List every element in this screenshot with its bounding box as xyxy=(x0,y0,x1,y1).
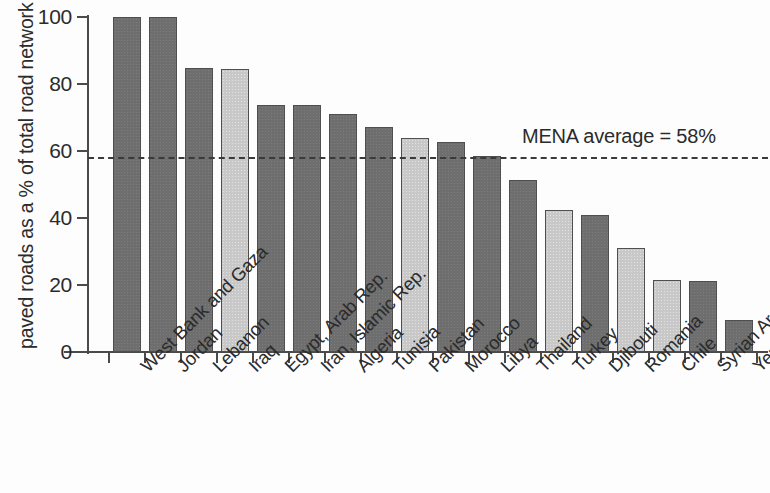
y-axis-tick-label-wrap: 100 xyxy=(0,6,72,27)
y-axis-tick xyxy=(77,351,88,353)
x-axis-category-label: West Bank and Gaza xyxy=(137,362,150,375)
x-axis-category-label-text: Romania xyxy=(641,362,654,375)
y-axis-tick-label: 20 xyxy=(0,274,72,295)
x-axis-category-label-text: Pakistan xyxy=(425,362,438,375)
x-axis-category-label-text: Libya xyxy=(497,362,510,375)
x-axis-category-label: Romania xyxy=(641,362,654,375)
x-axis-category-label: Iran, Islamic Rep. xyxy=(317,362,330,375)
x-axis-category-label-text: Iran, Islamic Rep. xyxy=(317,362,330,375)
x-axis-category-label-text: West Bank and Gaza xyxy=(137,362,150,375)
x-axis-category-label-text: Thailand xyxy=(533,362,546,375)
y-axis-tick-label-wrap: 80 xyxy=(0,73,72,94)
x-axis-category-label: Morocco xyxy=(461,362,474,375)
mena-average-label: MENA average = 58% xyxy=(522,126,716,146)
y-axis-tick xyxy=(77,284,88,286)
bar-morocco xyxy=(437,142,465,352)
x-axis-category-label-text: Turkey xyxy=(569,362,582,375)
x-axis-category-label: Yemen, Rep. xyxy=(749,362,762,375)
x-axis-category-label-text: Lebanon xyxy=(209,362,222,375)
x-axis-category-label-text: Jordan xyxy=(173,362,186,375)
x-axis-category-label-text: Iraq xyxy=(245,362,258,375)
x-axis-category-label: Jordan xyxy=(173,362,186,375)
y-axis-tick-label-wrap: 40 xyxy=(0,207,72,228)
y-axis-tick-label-wrap: 20 xyxy=(0,274,72,295)
mena-average-line xyxy=(88,157,768,159)
plot-area xyxy=(88,17,768,352)
y-axis-tick-label: 60 xyxy=(0,140,72,161)
bar-pakistan xyxy=(401,138,429,352)
x-axis-category-label-text: Tunisia xyxy=(389,362,402,375)
y-axis-tick-label: 0 xyxy=(0,341,72,362)
y-axis-tick-label: 80 xyxy=(0,73,72,94)
x-axis-category-label: Chile xyxy=(677,362,690,375)
x-axis-category-label-text: Morocco xyxy=(461,362,474,375)
x-axis-category-label-text: Egypt, Arab Rep. xyxy=(281,362,294,375)
x-axis-category-label-text: Djibouti xyxy=(605,362,618,375)
bar-west-bank-and-gaza xyxy=(113,17,141,352)
x-axis-tick xyxy=(108,352,110,363)
y-axis-title: paved roads as a % of total road network xyxy=(15,9,37,349)
x-axis-category-label: Egypt, Arab Rep. xyxy=(281,362,294,375)
y-axis-tick-label: 100 xyxy=(0,6,72,27)
x-axis-category-label: Djibouti xyxy=(605,362,618,375)
y-axis-tick-label-wrap: 60 xyxy=(0,140,72,161)
y-axis-tick xyxy=(77,16,88,18)
x-axis-category-label-text: Chile xyxy=(677,362,690,375)
bar-jordan xyxy=(149,17,177,352)
x-axis-category-label: Pakistan xyxy=(425,362,438,375)
x-axis-category-label: Lebanon xyxy=(209,362,222,375)
bar-chart-figure: paved roads as a % of total road network… xyxy=(0,0,770,493)
bar-iraq xyxy=(221,69,249,352)
bar-iran-islamic-rep xyxy=(293,105,321,352)
x-axis-category-label-text: Yemen, Rep. xyxy=(749,362,762,375)
x-axis-category-label-text: Syrian Arab Republic xyxy=(713,362,726,375)
x-axis-category-label: Syrian Arab Republic xyxy=(713,362,726,375)
x-axis-category-label: Tunisia xyxy=(389,362,402,375)
y-axis-tick-label-wrap: 0 xyxy=(0,341,72,362)
y-axis-tick-label: 40 xyxy=(0,207,72,228)
x-axis-category-label-text: Algeria xyxy=(353,362,366,375)
x-axis-category-label: Turkey xyxy=(569,362,582,375)
x-axis-category-label: Algeria xyxy=(353,362,366,375)
y-axis-tick xyxy=(77,217,88,219)
x-axis-category-label: Thailand xyxy=(533,362,546,375)
x-axis-category-label: Iraq xyxy=(245,362,258,375)
x-axis-category-label: Libya xyxy=(497,362,510,375)
y-axis-tick xyxy=(77,83,88,85)
y-axis-tick xyxy=(77,150,88,152)
